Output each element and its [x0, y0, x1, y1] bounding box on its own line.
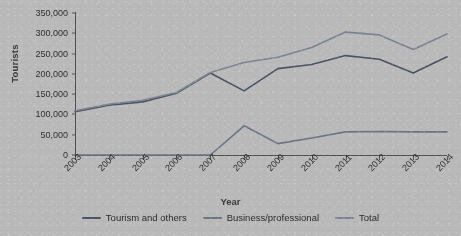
x-tick-label: 2011 [333, 152, 354, 173]
x-tick-label: 2003 [62, 152, 83, 173]
legend-swatch-icon [82, 217, 101, 219]
legend-swatch-icon [335, 217, 354, 219]
x-tick-label: 2005 [130, 152, 151, 173]
legend-item[interactable]: Tourism and others [82, 212, 187, 223]
legend-swatch-icon [203, 217, 222, 219]
x-tick-label: 2010 [299, 152, 320, 173]
x-axis-title: Year [0, 196, 461, 207]
line-chart: Tourists 050,000100,000150,000200,000250… [0, 0, 461, 236]
x-tick-label: 2007 [197, 152, 218, 173]
x-tick-label: 2009 [265, 152, 286, 173]
legend-label: Business/professional [227, 212, 319, 223]
x-tick-label: 2014 [434, 152, 455, 173]
legend-item[interactable]: Total [335, 212, 379, 223]
x-tick-label: 2008 [231, 152, 252, 173]
x-tick-label: 2012 [366, 152, 387, 173]
legend-label: Total [359, 212, 379, 223]
chart-legend: Tourism and othersBusiness/professionalT… [0, 212, 461, 223]
legend-label: Tourism and others [106, 212, 187, 223]
x-tick-label: 2006 [163, 152, 184, 173]
legend-item[interactable]: Business/professional [203, 212, 319, 223]
x-tick-label: 2004 [96, 152, 117, 173]
x-tick-label: 2013 [400, 152, 421, 173]
